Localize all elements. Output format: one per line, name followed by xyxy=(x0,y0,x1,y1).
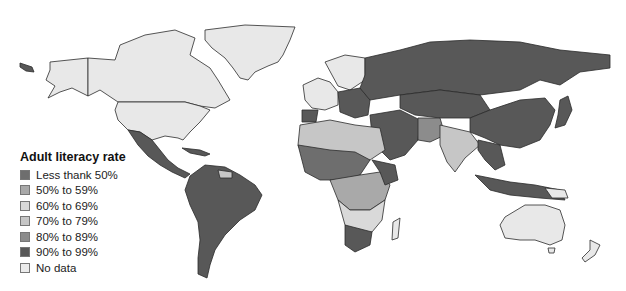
swatch xyxy=(20,201,30,211)
region-tasmania xyxy=(548,248,555,253)
legend-item-90-99: 90% to 99% xyxy=(20,245,126,261)
swatch xyxy=(20,170,30,180)
legend-label: 80% to 89% xyxy=(36,231,98,243)
legend-item-no-data: No data xyxy=(20,260,126,276)
legend: Adult literacy rate Less thank 50% 50% t… xyxy=(20,150,126,276)
region-western-europe xyxy=(303,78,338,110)
region-australia xyxy=(500,205,565,245)
legend-item-50-59: 50% to 59% xyxy=(20,183,126,199)
region-alaska xyxy=(46,58,88,98)
region-russia xyxy=(360,40,610,100)
legend-label: 90% to 99% xyxy=(36,246,98,258)
legend-label: Less thank 50% xyxy=(36,169,118,181)
legend-item-70-79: 70% to 79% xyxy=(20,214,126,230)
legend-label: No data xyxy=(36,262,76,274)
swatch xyxy=(20,247,30,257)
region-caribbean xyxy=(182,148,210,156)
region-iberia xyxy=(302,110,318,122)
legend-item-lt50: Less thank 50% xyxy=(20,167,126,183)
legend-label: 50% to 59% xyxy=(36,184,98,196)
swatch xyxy=(20,232,30,242)
region-usa xyxy=(115,102,210,140)
legend-label: 60% to 69% xyxy=(36,200,98,212)
region-new-zealand xyxy=(582,240,600,262)
region-madagascar xyxy=(392,218,400,240)
legend-title: Adult literacy rate xyxy=(20,150,126,164)
region-greenland xyxy=(205,25,295,80)
legend-item-80-89: 80% to 89% xyxy=(20,229,126,245)
legend-item-60-69: 60% to 69% xyxy=(20,198,126,214)
swatch xyxy=(20,216,30,226)
region-central-asia xyxy=(400,90,490,118)
swatch xyxy=(20,263,30,273)
region-south-america xyxy=(185,165,262,278)
swatch xyxy=(20,185,30,195)
region-aleutian xyxy=(20,63,34,72)
legend-label: 70% to 79% xyxy=(36,215,98,227)
region-japan xyxy=(555,96,572,128)
